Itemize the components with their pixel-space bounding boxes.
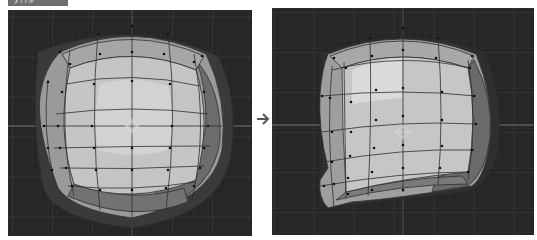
- viewport-before[interactable]: [8, 10, 252, 236]
- mesh-after: [320, 26, 500, 208]
- figure-label-tab: ﾀｲﾄﾙ: [8, 0, 68, 6]
- viewport-after[interactable]: [272, 8, 534, 235]
- arrow-right-icon: [256, 112, 270, 126]
- mesh-after-canvas: [272, 8, 534, 235]
- mesh-before-canvas: [8, 10, 252, 236]
